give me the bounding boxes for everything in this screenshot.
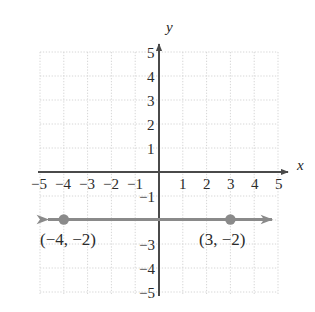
graph-canvas xyxy=(0,0,315,312)
coordinate-plane-figure: y x −5 −4 −3 −2 −1 1 2 3 4 5 5 4 3 2 1 −… xyxy=(0,0,315,312)
x-tick-label-neg3: −3 xyxy=(79,177,95,192)
plotted-point-right xyxy=(225,214,235,224)
x-tick-label-5: 5 xyxy=(275,177,283,192)
x-tick-label-4: 4 xyxy=(251,177,259,192)
y-tick-label-2: 2 xyxy=(147,118,155,133)
x-tick-label-3: 3 xyxy=(227,177,235,192)
plotted-point-left xyxy=(59,214,69,224)
y-tick-label-neg5: −5 xyxy=(139,286,155,301)
y-tick-label-neg4: −4 xyxy=(139,262,155,277)
point-label-right: (3, −2) xyxy=(199,231,245,248)
x-tick-label-neg2: −2 xyxy=(103,177,119,192)
x-axis-label: x xyxy=(297,158,304,173)
x-tick-label-2: 2 xyxy=(203,177,211,192)
y-tick-label-neg3: −3 xyxy=(139,238,155,253)
y-tick-label-4: 4 xyxy=(147,70,155,85)
y-tick-label-3: 3 xyxy=(147,94,155,109)
y-tick-label-5: 5 xyxy=(147,46,155,61)
x-tick-label-neg5: −5 xyxy=(31,177,47,192)
y-tick-label-neg1: −1 xyxy=(139,190,155,205)
point-label-left: (−4, −2) xyxy=(40,231,96,248)
x-tick-label-1: 1 xyxy=(179,177,187,192)
y-tick-label-1: 1 xyxy=(147,142,155,157)
x-tick-label-neg4: −4 xyxy=(55,177,71,192)
y-axis-label: y xyxy=(166,20,173,35)
